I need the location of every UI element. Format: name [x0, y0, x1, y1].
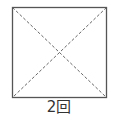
fold-count-label: 2回	[0, 99, 113, 116]
